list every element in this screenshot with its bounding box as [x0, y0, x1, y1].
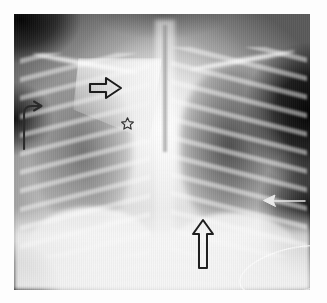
star-marker-icon[interactable]: [121, 117, 134, 130]
hollow-right-arrow-icon[interactable]: [89, 76, 123, 100]
thin-left-arrow-icon[interactable]: [262, 193, 306, 208]
radiograph-figure: [0, 0, 327, 303]
scanline-texture: [14, 14, 310, 290]
radiograph-plate[interactable]: [14, 14, 310, 290]
figure-mount-bottom: [0, 290, 327, 303]
hollow-up-arrow-icon[interactable]: [191, 219, 215, 269]
hooked-arrow-icon[interactable]: [20, 100, 46, 150]
